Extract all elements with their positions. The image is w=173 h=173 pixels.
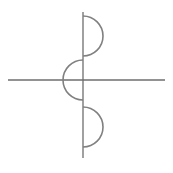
semicircle-axis-diagram [0,0,173,173]
upper-arc-semicircle [83,16,103,56]
lower-arc-semicircle [83,107,103,147]
figure-canvas [0,0,173,173]
